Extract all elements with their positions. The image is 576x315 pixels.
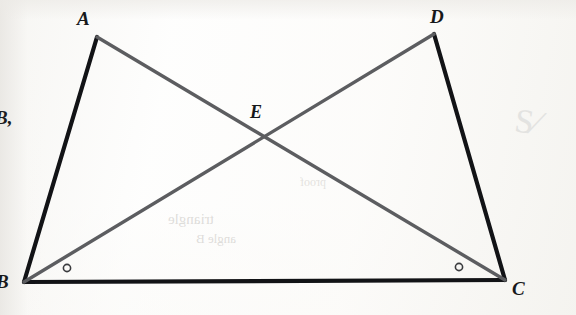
- vertex-label-d: D: [430, 7, 444, 26]
- margin-annotation: B,: [0, 108, 12, 127]
- angle-B-mark-icon: [63, 264, 70, 271]
- vertex-label-b: B: [0, 272, 9, 291]
- scanned-diagram-page: triangle angle B proof A D E B C B, S⁄: [0, 0, 576, 315]
- faint-pencil-mark: S⁄: [513, 103, 542, 140]
- vertex-label-c: C: [512, 279, 525, 298]
- vertex-label-a: A: [77, 9, 90, 28]
- vertex-label-e: E: [250, 103, 262, 121]
- angle-marks-group: [63, 263, 462, 271]
- segment-bc: [24, 280, 505, 282]
- segments-group: [24, 34, 505, 282]
- geometry-figure: [0, 0, 576, 315]
- angle-C-mark-icon: [455, 263, 462, 270]
